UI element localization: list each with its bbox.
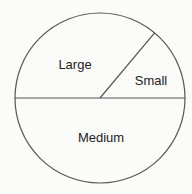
slice-label-medium: Medium — [78, 131, 124, 144]
pie-chart — [0, 0, 192, 194]
slice-label-small: Small — [135, 74, 168, 87]
divider-small-large — [100, 33, 155, 98]
slice-label-large: Large — [58, 58, 91, 71]
